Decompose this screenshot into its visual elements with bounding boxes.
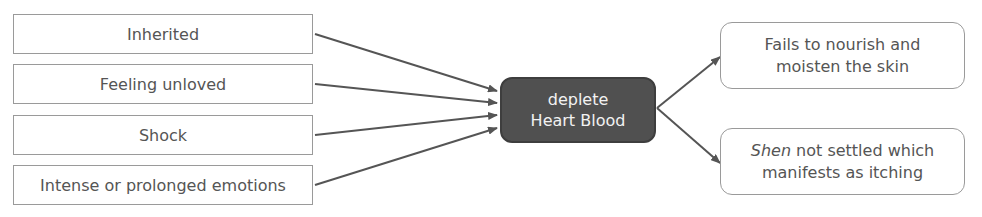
cause-label: Feeling unloved bbox=[100, 75, 226, 94]
cause-label: Shock bbox=[139, 126, 187, 145]
cause-intense-emotions: Intense or prolonged emotions bbox=[13, 165, 313, 205]
arrow-skin bbox=[657, 57, 720, 108]
center-node-deplete-heart-blood: deplete Heart Blood bbox=[500, 77, 656, 143]
arrow-feeling-unloved bbox=[315, 84, 497, 103]
arrow-inherited bbox=[315, 34, 497, 91]
arrow-shen bbox=[657, 108, 720, 163]
center-line2: Heart Blood bbox=[531, 110, 626, 131]
center-line1: deplete bbox=[548, 89, 609, 110]
cause-shock: Shock bbox=[13, 115, 313, 155]
cause-feeling-unloved: Feeling unloved bbox=[13, 64, 313, 104]
arrow-emotions bbox=[315, 128, 497, 185]
cause-inherited: Inherited bbox=[13, 14, 313, 54]
effect-line1: Fails to nourish and bbox=[765, 34, 921, 56]
effect-skin: Fails to nourish and moisten the skin bbox=[720, 22, 965, 89]
effect-line1-rest: not settled which bbox=[791, 141, 934, 160]
arrow-shock bbox=[315, 115, 497, 135]
cause-label: Intense or prolonged emotions bbox=[40, 176, 286, 195]
effect-line2: moisten the skin bbox=[776, 56, 909, 78]
effect-shen-itching: Shen not settled which manifests as itch… bbox=[720, 128, 965, 195]
effect-line1: Shen not settled which bbox=[751, 140, 935, 162]
cause-label: Inherited bbox=[127, 25, 199, 44]
shen-term: Shen bbox=[751, 141, 791, 160]
effect-line2: manifests as itching bbox=[762, 162, 923, 184]
